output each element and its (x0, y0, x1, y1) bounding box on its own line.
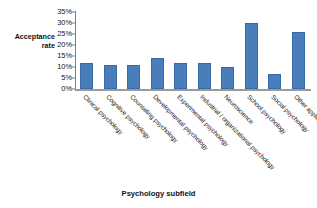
bar-slot (122, 12, 146, 89)
bar-slot (263, 12, 287, 89)
x-axis-category-label: Cognitive psychology (105, 93, 152, 140)
bar-slot (216, 12, 240, 89)
bar[interactable] (198, 63, 211, 89)
y-axis-tick-label: 10% (57, 63, 75, 71)
bar-slot (146, 12, 170, 89)
y-axis-tick-label: 25% (57, 30, 75, 38)
y-axis-tick-label: 0% (61, 85, 75, 93)
bars-layer (75, 12, 310, 89)
bar-chart-figure: Acceptance rate 35%30%25%20%15%10%5%0% C… (0, 0, 317, 208)
bar[interactable] (151, 58, 164, 89)
bar-slot (287, 12, 311, 89)
y-axis-tick-label: 30% (57, 19, 75, 27)
bar[interactable] (174, 63, 187, 89)
bar[interactable] (127, 65, 140, 89)
bar[interactable] (221, 67, 234, 89)
y-axis-tick-label: 15% (57, 52, 75, 60)
x-axis-line (75, 89, 311, 91)
bar[interactable] (80, 63, 93, 89)
y-axis-title: Acceptance rate (0, 33, 55, 50)
y-axis-tick-label: 20% (57, 41, 75, 49)
bar[interactable] (104, 65, 117, 89)
y-axis-tick-label: 5% (61, 74, 75, 82)
bar-slot (75, 12, 99, 89)
bar-slot (99, 12, 123, 89)
plot-area: 35%30%25%20%15%10%5%0% (75, 12, 310, 89)
x-axis-category-label: Clinical psychology (82, 93, 125, 136)
bar[interactable] (268, 74, 281, 89)
bar[interactable] (292, 32, 305, 89)
bar[interactable] (245, 23, 258, 89)
bar-slot (193, 12, 217, 89)
y-axis-tick-label: 35% (57, 8, 75, 16)
bar-slot (240, 12, 264, 89)
x-axis-title: Psychology subfield (0, 189, 317, 198)
bar-slot (169, 12, 193, 89)
